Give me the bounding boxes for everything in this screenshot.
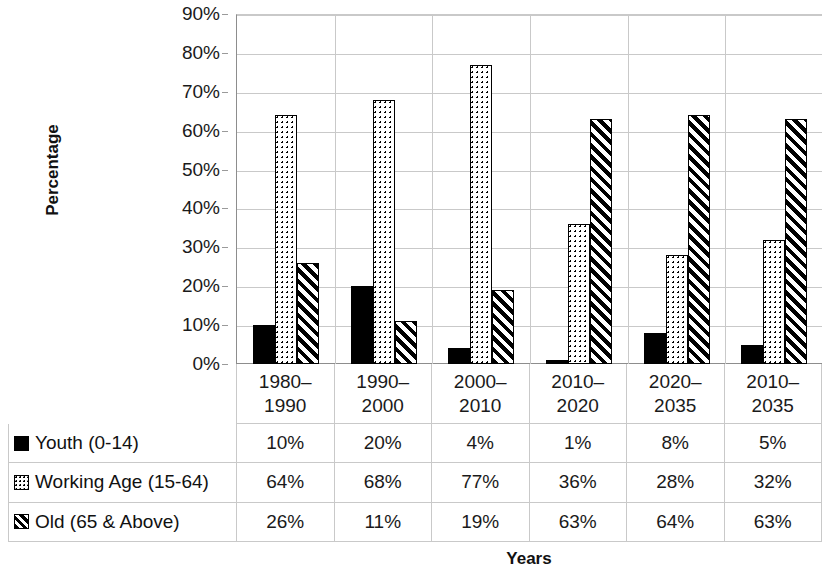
x-axis-category-label: 1980–1990 (236, 364, 335, 423)
bar-youth (448, 348, 470, 364)
data-table: Youth (0-14)10%20%4%1%8%5%Working Age (1… (8, 424, 822, 542)
y-axis-tick-mark (222, 53, 228, 54)
table-cell-value: 64% (627, 503, 725, 541)
x-axis-category-line: 2010– (551, 370, 604, 394)
table-cell-value: 64% (237, 463, 335, 501)
bar-old (492, 290, 514, 364)
y-axis-tick-mark (222, 170, 228, 171)
bar-old (590, 119, 612, 364)
x-axis-category-line: 2020 (557, 394, 599, 418)
table-cell-value: 26% (237, 503, 335, 541)
x-axis-category-line: 2035 (654, 394, 696, 418)
x-axis-category-line: 1980– (259, 370, 312, 394)
legend-swatch-youth-icon (14, 436, 29, 451)
x-axis-category-line: 2010– (746, 370, 799, 394)
bar-youth (351, 286, 373, 364)
x-axis-category-label: 1990–2000 (335, 364, 433, 423)
bar-youth (644, 333, 666, 364)
bar-working (666, 255, 688, 364)
y-axis-tick-label: 50% (182, 160, 220, 179)
y-axis-tick-mark (222, 247, 228, 248)
table-cell-value: 28% (627, 463, 725, 501)
bar-group (237, 15, 335, 364)
legend-series-label: Working Age (15-64) (9, 463, 237, 501)
bar-old (785, 119, 807, 364)
legend-series-name: Youth (0-14) (35, 432, 139, 454)
bar-group (530, 15, 628, 364)
y-axis-tick-mark (222, 286, 228, 287)
table-cell-value: 10% (237, 424, 335, 462)
x-axis-category-line: 1990 (264, 394, 306, 418)
y-axis-tick-mark (222, 131, 228, 132)
table-cell-value: 32% (725, 463, 822, 501)
bar-working (470, 65, 492, 364)
table-cell-value: 5% (725, 424, 822, 462)
y-axis-tick-label: 90% (182, 4, 220, 23)
y-axis-tick-label: 80% (182, 43, 220, 62)
bar-old (297, 263, 319, 364)
y-axis-tick-label: 20% (182, 276, 220, 295)
bar-group (432, 15, 530, 364)
x-axis-category-line: 1990– (356, 370, 409, 394)
y-axis-tick-mark (222, 92, 228, 93)
table-cell-value: 77% (432, 463, 530, 501)
legend-swatch-working-icon (14, 475, 29, 490)
table-row: Old (65 & Above)26%11%19%63%64%63% (9, 503, 821, 541)
grouped-bar-chart: Percentage 90%80%70%60%50%40%30%20%10%0%… (0, 0, 828, 579)
y-axis-tick-label: 40% (182, 198, 220, 217)
table-cell-value: 63% (725, 503, 822, 541)
bar-working (373, 100, 395, 364)
bar-youth (253, 325, 275, 364)
bar-youth (741, 345, 763, 364)
table-cell-value: 4% (432, 424, 530, 462)
table-cell-value: 19% (432, 503, 530, 541)
y-axis-tick-mark (222, 325, 228, 326)
plot-area (236, 14, 822, 364)
y-axis-tick-label: 10% (182, 315, 220, 334)
legend-swatch-old-icon (14, 514, 29, 529)
bar-group (335, 15, 433, 364)
table-cell-value: 36% (530, 463, 628, 501)
x-axis-category-label: 2000–2010 (432, 364, 530, 423)
y-axis-tick-labels: 90%80%70%60%50%40%30%20%10%0% (148, 0, 228, 380)
table-cell-value: 1% (530, 424, 628, 462)
table-row: Youth (0-14)10%20%4%1%8%5% (9, 424, 821, 463)
y-axis-tick-mark (222, 364, 228, 365)
x-axis-category-line: 2000 (362, 394, 404, 418)
y-axis-tick-mark (222, 14, 228, 15)
y-axis-tick-mark (222, 208, 228, 209)
bar-working (568, 224, 590, 364)
x-axis-category-line: 2000– (454, 370, 507, 394)
legend-series-name: Working Age (15-64) (35, 471, 209, 493)
x-axis-category-label: 2010–2035 (725, 364, 823, 423)
x-axis-category-line: 2035 (752, 394, 794, 418)
table-cell-value: 63% (530, 503, 628, 541)
bar-group (725, 15, 823, 364)
legend-series-name: Old (65 & Above) (35, 511, 180, 533)
table-cell-value: 68% (335, 463, 433, 501)
x-axis-title: Years (236, 549, 822, 569)
y-axis-tick-label: 0% (193, 354, 220, 373)
y-axis-tick-label: 30% (182, 237, 220, 256)
bar-working (275, 115, 297, 364)
table-cell-value: 20% (335, 424, 433, 462)
y-axis-tick-label: 70% (182, 82, 220, 101)
legend-series-label: Youth (0-14) (9, 424, 237, 462)
legend-series-label: Old (65 & Above) (9, 503, 237, 541)
bar-old (688, 115, 710, 364)
x-axis-category-label: 2010–2020 (530, 364, 628, 423)
x-axis-category-label: 2020–2035 (627, 364, 725, 423)
bar-working (763, 240, 785, 364)
table-cell-value: 11% (335, 503, 433, 541)
y-axis-title: Percentage (43, 70, 63, 270)
table-row: Working Age (15-64)64%68%77%36%28%32% (9, 463, 821, 502)
bar-group (628, 15, 726, 364)
bar-old (395, 321, 417, 364)
x-axis-category-line: 2010 (459, 394, 501, 418)
table-cell-value: 8% (627, 424, 725, 462)
y-axis-tick-label: 60% (182, 121, 220, 140)
x-axis-category-line: 2020– (649, 370, 702, 394)
x-axis-category-band: 1980–19901990–20002000–20102010–20202020… (236, 364, 822, 424)
